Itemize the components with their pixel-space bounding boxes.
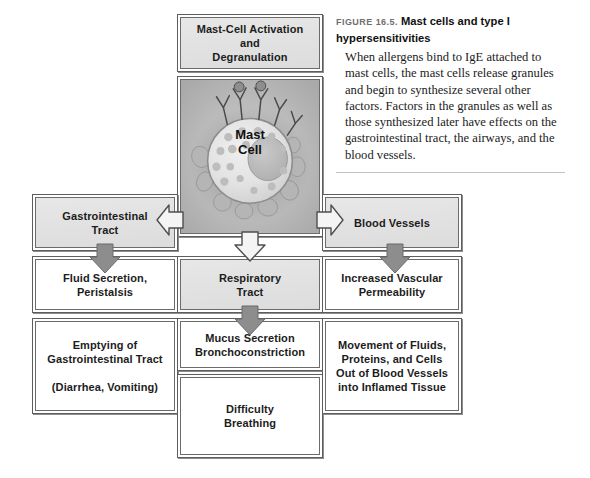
box-difficulty-breathing: Difficulty Breathing — [177, 374, 323, 458]
box-movement-of-fluids: Movement of Fluids, Proteins, and Cells … — [322, 318, 462, 414]
box-emptying-gi-tract-label: Emptying of Gastrointestinal Tract (Diar… — [41, 338, 168, 394]
arrow-to-gastrointestinal-tract — [156, 203, 184, 237]
mast-cell-illustration-panel: Mast Cell — [177, 76, 323, 237]
box-mast-cell-activation: Mast-Cell Activation and Degranulation — [177, 14, 323, 72]
arrow-gi-to-fluid-secretion — [88, 243, 122, 275]
arrow-blood-vessels-to-permeability — [378, 243, 412, 275]
arrow-to-respiratory-tract — [233, 231, 267, 263]
figure-caption-heading: FIGURE 16.5. Mast cells and type I hyper… — [336, 14, 568, 46]
box-respiratory-tract-label: Respiratory Tract — [213, 271, 287, 299]
box-blood-vessels-label: Blood Vessels — [348, 216, 436, 230]
arrow-respiratory-to-mucus-secretion — [233, 305, 267, 337]
box-difficulty-breathing-label: Difficulty Breathing — [218, 402, 282, 430]
caption-divider — [336, 172, 565, 173]
figure-number: FIGURE 16.5. — [336, 17, 398, 27]
box-gastrointestinal-tract-label: Gastrointestinal Tract — [56, 209, 153, 237]
figure-container: Mast-Cell Activation and Degranulation — [0, 0, 590, 478]
box-mast-cell-activation-label: Mast-Cell Activation and Degranulation — [191, 22, 310, 64]
box-movement-of-fluids-label: Movement of Fluids, Proteins, and Cells … — [330, 338, 454, 394]
figure-caption-body: When allergens bind to IgE attached to m… — [345, 49, 568, 163]
arrow-to-blood-vessels — [316, 203, 344, 237]
box-emptying-gi-tract: Emptying of Gastrointestinal Tract (Diar… — [32, 318, 178, 414]
figure-caption: FIGURE 16.5. Mast cells and type I hyper… — [336, 14, 568, 173]
mast-cell-icon — [181, 80, 319, 233]
